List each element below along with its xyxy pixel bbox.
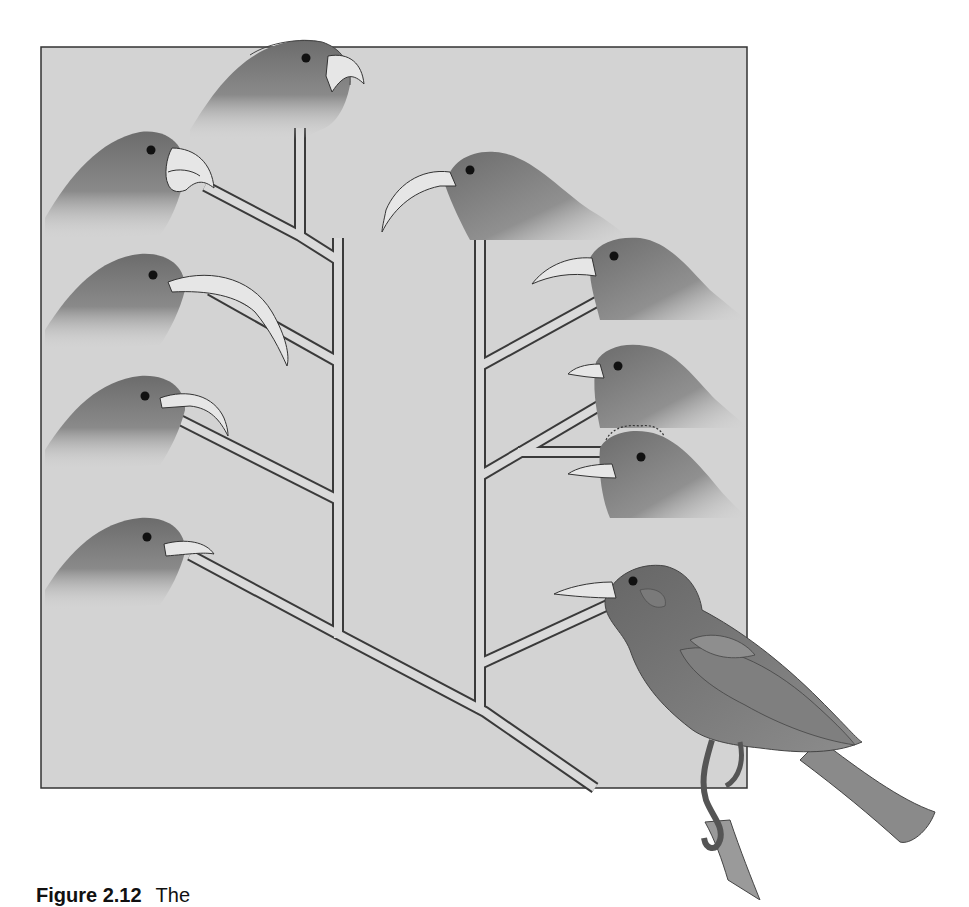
figure-caption-label: Figure 2.12 xyxy=(36,884,142,906)
figure-caption: Figure 2.12The xyxy=(36,884,190,907)
figure-caption-text: The xyxy=(156,884,190,906)
